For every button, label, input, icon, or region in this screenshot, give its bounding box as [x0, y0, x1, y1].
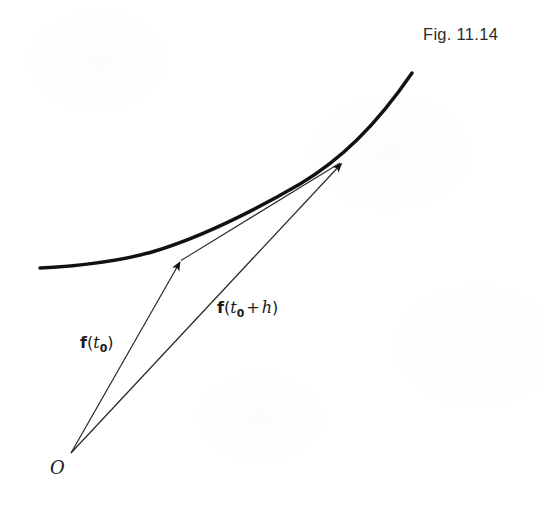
- origin-label: O: [50, 457, 65, 478]
- vector-label-f-t0-plus-h-function: f: [217, 298, 224, 317]
- vector-f-t0: [71, 262, 180, 453]
- vector-label-f-t0-plus-h-operator: +: [244, 298, 261, 317]
- curve-path: [40, 73, 412, 268]
- vector-label-f-t0-function: f: [80, 333, 87, 352]
- vector-calculus-diagram: [0, 0, 542, 510]
- vector-label-f-t0: f(t0): [80, 333, 113, 355]
- vector-f-t0-plus-h: [71, 164, 342, 454]
- vector-label-f-t0-plus-h-increment: h: [262, 298, 272, 317]
- vector-label-f-t0-close-paren: ): [107, 333, 113, 352]
- secant-chord: [181, 163, 340, 261]
- figure-caption: Fig. 11.14: [423, 25, 498, 44]
- figure-canvas: Fig. 11.14 f(t0) f(t0+h) O: [0, 0, 542, 510]
- vector-label-f-t0-plus-h: f(t0+h): [217, 298, 278, 320]
- vector-label-f-t0-plus-h-close-paren: ): [272, 298, 278, 317]
